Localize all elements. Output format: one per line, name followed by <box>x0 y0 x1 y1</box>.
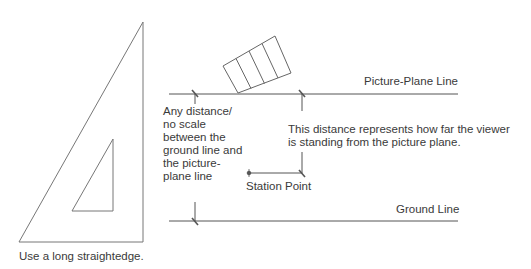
straightedge-caption: Use a long straightedge. <box>19 250 144 263</box>
drafting-triangle-icon <box>19 22 143 242</box>
picture-plane-line-label: Picture-Plane Line <box>364 75 458 88</box>
station-point-label: Station Point <box>246 180 311 193</box>
viewer-distance-label: This distance represents how far the vie… <box>288 123 510 149</box>
station-point-icon <box>247 169 251 177</box>
any-distance-label: Any distance/ no scale between the groun… <box>163 105 242 183</box>
box-object-icon <box>223 36 291 93</box>
ground-line-label: Ground Line <box>396 203 459 216</box>
